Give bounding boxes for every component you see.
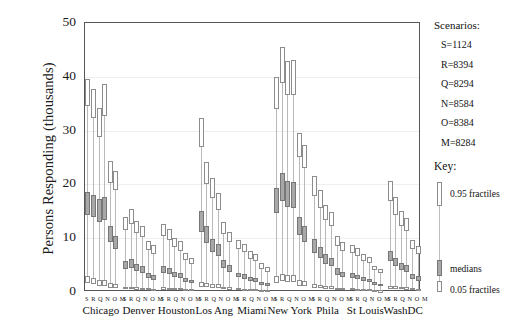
upper-fractile-box [140,226,145,237]
lower-fractile-box [161,287,166,290]
upper-fractile-box [134,221,139,233]
key-median-box [437,260,442,276]
key-title: Key: [434,160,456,172]
lower-fractile-box [350,288,355,290]
scenario-letters-st-louis: S R Q N O M [349,295,383,302]
upper-fractile-box [416,246,421,255]
plot-area [84,22,420,291]
median-box [113,236,118,249]
median-box [297,217,302,235]
upper-fractile-box [297,133,302,158]
lower-fractile-box [178,288,183,290]
lower-fractile-box [183,289,188,291]
lower-fractile-box [404,287,409,290]
median-box [236,273,241,278]
median-box [323,254,328,264]
lower-fractile-box [318,285,323,288]
median-box [393,258,398,267]
lower-fractile-box [416,289,421,291]
upper-fractile-box [236,240,241,249]
upper-fractile-box [285,61,290,95]
upper-fractile-box [123,217,128,230]
median-box [146,273,151,278]
median-box [216,244,221,256]
median-box [189,280,194,283]
chart-figure: Persons Responding (thousands) 010203040… [0,0,517,336]
upper-fractile-box [102,84,107,116]
median-box [85,192,90,215]
upper-fractile-box [199,118,204,147]
upper-fractile-box [161,224,166,236]
median-box [274,188,279,213]
upper-fractile-box [108,161,113,183]
scenario-letters-houston: S R Q N O M [161,295,195,302]
upper-fractile-box [388,181,393,200]
lower-fractile-box [335,288,340,290]
y-axis-tick-label: 30 [42,123,76,137]
median-box [210,239,215,252]
lower-fractile-box [274,276,279,283]
lower-fractile-box [113,284,118,288]
upper-fractile-box [97,108,102,137]
median-box [404,265,409,272]
y-axis-tick-label: 20 [42,176,76,190]
scenario-letters-washdc: S R Q N O M [387,295,421,302]
median-box [140,266,145,273]
lower-fractile-box [199,282,204,287]
upper-fractile-box [318,190,323,208]
median-box [221,260,226,269]
scenario-letters-new-york: S R Q N O M [274,295,308,302]
key-label-lower: 0.05 fractiles [450,285,500,295]
upper-fractile-box [189,258,194,264]
key-lower-box [437,281,442,292]
upper-fractile-box [404,218,409,231]
gridline [85,184,419,185]
legend-title: Scenarios: [434,20,480,31]
x-axis-city-label: WashDC [380,304,426,316]
lower-fractile-box [123,287,128,290]
lower-fractile-box [216,284,221,288]
upper-fractile-box [242,244,247,253]
key-label-median: medians [450,264,482,274]
upper-fractile-box [216,193,221,210]
y-axis-tick-label: 50 [42,15,76,29]
upper-fractile-box [312,176,317,196]
median-box [242,274,247,279]
upper-fractile-box [172,238,177,248]
scenarios-legend: Scenarios: S=1124 R=8394 Q=8294 N=8584 O… [434,20,480,157]
lower-fractile-box [146,288,151,290]
median-box [285,181,290,207]
lower-fractile-box [129,287,134,290]
median-box [367,279,372,282]
upper-fractile-box [367,257,372,263]
y-axis-tick-label: 0 [42,284,76,298]
lower-fractile-box [393,286,398,289]
lower-fractile-box [102,280,107,286]
lower-fractile-box [372,290,377,292]
median-box [102,197,107,220]
lower-fractile-box [265,290,270,292]
median-box [318,247,323,258]
lower-fractile-box [140,288,145,290]
upper-fractile-box [302,145,307,169]
median-box [227,265,232,272]
median-box [161,266,166,273]
upper-fractile-box [85,79,90,106]
upper-fractile-box [227,232,232,243]
lower-fractile-box [410,288,415,290]
key-glyph-icon [436,182,443,290]
bar-stem [93,89,94,285]
upper-fractile-box [248,251,253,259]
lower-fractile-box [189,289,194,291]
scenario-letters-los-ang: S R Q N O M [198,295,232,302]
lower-fractile-box [259,290,264,292]
lower-fractile-box [285,275,290,282]
lower-fractile-box [388,286,393,289]
median-box [302,226,307,242]
median-box [399,263,404,271]
lower-fractile-box [221,287,226,290]
lower-fractile-box [134,287,139,290]
lower-fractile-box [323,286,328,289]
upper-fractile-box [167,229,172,240]
lower-fractile-box [85,276,90,283]
